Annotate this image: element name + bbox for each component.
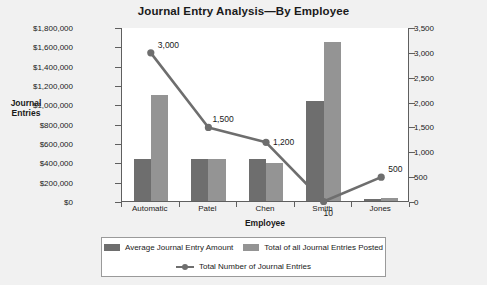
- y-axis-left-tick-label: $1,200,000: [1, 82, 73, 91]
- y-axis-left-tick-label: $400,000: [1, 159, 73, 168]
- line-point-label-jones: 500: [388, 164, 402, 174]
- line-point-label-chen: 1,200: [273, 137, 294, 147]
- plot-frame: 3,0001,5001,20010500: [121, 28, 409, 202]
- y-axis-right-tick-label: 1,000: [414, 148, 474, 157]
- line-point-label-automatic: 3,000: [158, 40, 179, 50]
- y-axis-left-tick-label: $0: [1, 198, 73, 207]
- line-series-svg: [122, 28, 410, 202]
- x-axis-separator: [121, 202, 122, 207]
- y-axis-right-tick-label: 2,000: [414, 98, 474, 107]
- y-axis-left-tick-label: $1,400,000: [1, 62, 73, 71]
- y-axis-left-tick-label: $800,000: [1, 120, 73, 129]
- y-axis-right-tick-label: 0: [414, 198, 474, 207]
- x-axis-separator: [236, 202, 237, 207]
- legend-item-average-journal-entry-amount[interactable]: Average Journal Entry Amount: [104, 243, 233, 252]
- x-axis-separator: [351, 202, 352, 207]
- y-axis-left-tick-label: $200,000: [1, 178, 73, 187]
- plot-area: 3,0001,5001,20010500: [122, 28, 408, 201]
- legend-label-total-number-of-journal-entries: Total Number of Journal Entries: [199, 262, 311, 271]
- line-point-label-smith: 10: [324, 208, 333, 218]
- legend-row-1: Average Journal Entry Amount Total of al…: [102, 238, 385, 257]
- legend-item-total-of-all-journal-entries-posted[interactable]: Total of all Journal Entries Posted: [243, 243, 383, 252]
- chart-legend: Average Journal Entry Amount Total of al…: [101, 237, 386, 277]
- x-axis-tick-label-jones: Jones: [345, 204, 415, 213]
- line-data-point-smith: [320, 198, 327, 205]
- y-axis-right-tick-label: 1,500: [414, 123, 474, 132]
- y-axis-left-tick-label: $1,800,000: [1, 24, 73, 33]
- line-data-point-jones: [378, 174, 385, 181]
- x-axis-separator: [294, 202, 295, 207]
- line-data-point-automatic: [147, 49, 154, 56]
- chart-title: Journal Entry Analysis—By Employee: [0, 5, 487, 17]
- y-axis-right-tick-label: 2,500: [414, 73, 474, 82]
- line-data-point-chen: [262, 139, 269, 146]
- legend-label-average-journal-entry-amount: Average Journal Entry Amount: [125, 243, 233, 252]
- y-axis-right-tick-label: 500: [414, 173, 474, 182]
- chart-container: Journal Entry Analysis—By Employee Journ…: [0, 0, 487, 285]
- x-axis-separator: [179, 202, 180, 207]
- line-point-label-patel: 1,500: [212, 114, 233, 124]
- line-series-path: [151, 53, 381, 202]
- legend-label-total-of-all-journal-entries-posted: Total of all Journal Entries Posted: [264, 243, 383, 252]
- y-axis-right-tick-label: 3,000: [414, 48, 474, 57]
- y-axis-left-tick-label: $1,000,000: [1, 101, 73, 110]
- legend-swatch-icon-bar-b: [243, 244, 259, 251]
- legend-swatch-icon-line: [176, 263, 194, 271]
- line-data-point-patel: [205, 124, 212, 131]
- legend-item-total-number-of-journal-entries[interactable]: Total Number of Journal Entries: [176, 262, 311, 271]
- y-axis-left-tick-label: $600,000: [1, 140, 73, 149]
- legend-swatch-icon-bar-a: [104, 244, 120, 251]
- y-axis-right-tick-label: 3,500: [414, 24, 474, 33]
- legend-row-2: Total Number of Journal Entries: [102, 257, 385, 276]
- y-axis-left-tick-label: $1,600,000: [1, 43, 73, 52]
- x-axis-title: Employee: [121, 218, 409, 228]
- x-axis-separator: [409, 202, 410, 207]
